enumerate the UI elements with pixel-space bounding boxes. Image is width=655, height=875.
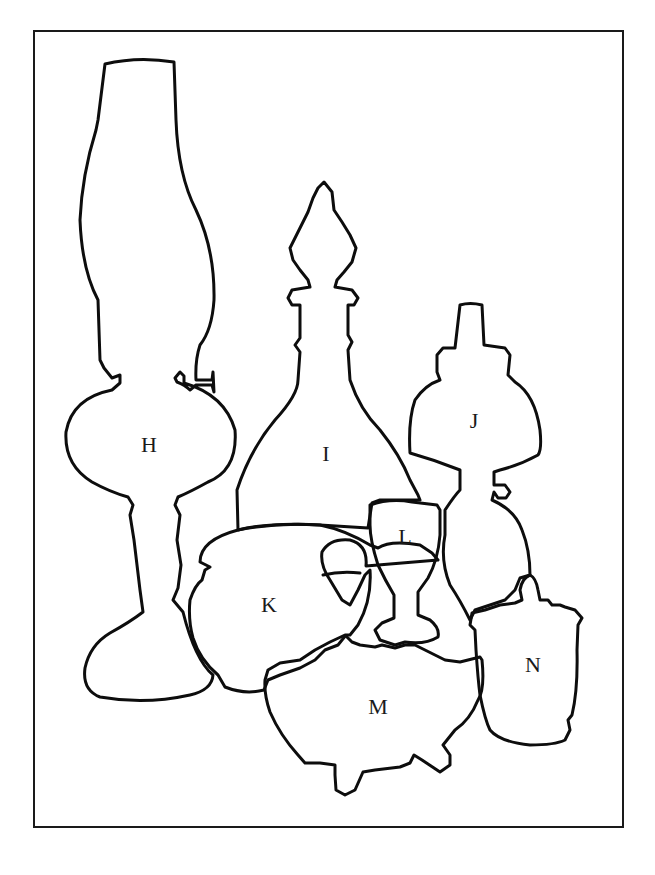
picture-frame [34,31,623,827]
label-j: J [470,408,479,433]
still-life-diagram: H I J K L M N [0,0,655,875]
object-l-goblet [370,501,440,645]
object-k-pitcher [189,524,438,692]
label-h: H [141,432,157,457]
label-n: N [525,652,541,677]
object-i-decanter [237,182,420,530]
label-k: K [261,592,277,617]
object-h-oil-lamp [66,59,235,700]
label-l: L [398,524,411,549]
label-m: M [368,694,388,719]
label-i: I [322,441,329,466]
